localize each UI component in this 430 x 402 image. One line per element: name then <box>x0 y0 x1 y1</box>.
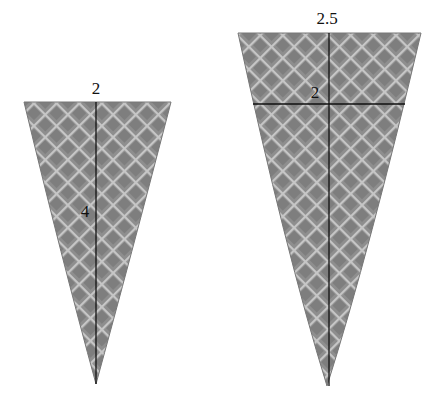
large-cone <box>238 33 421 386</box>
small-cone <box>24 102 171 384</box>
small-cone-top-label: 2 <box>92 80 101 97</box>
large-cone-inner-width-label: 2 <box>311 84 320 101</box>
small-cone-body <box>24 102 171 384</box>
small-cone-height-label: 4 <box>81 203 90 220</box>
cones-figure <box>0 0 430 402</box>
large-cone-top-label: 2.5 <box>316 10 337 27</box>
